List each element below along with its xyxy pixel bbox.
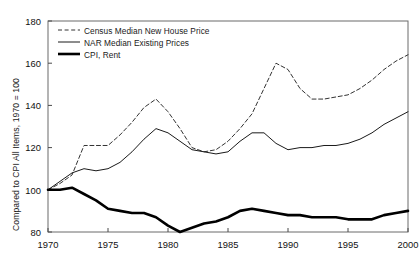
chart-figure: Compared to CPI All Items, 1970 = 100 18… [0,0,419,264]
data-series-group [48,55,408,232]
axis-ticks [48,21,408,232]
axes-frame [48,21,408,232]
plot-border [48,21,408,232]
plot-canvas [0,0,419,264]
series-line-2 [48,188,408,232]
series-line-1 [48,112,408,190]
legend-swatches [58,30,80,54]
